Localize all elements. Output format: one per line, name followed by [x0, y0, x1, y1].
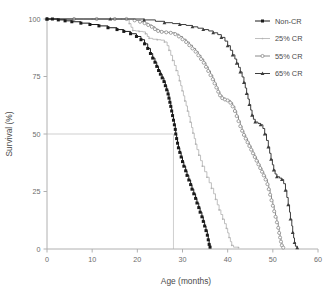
marker-circle-open — [274, 215, 277, 218]
marker-circle-open — [199, 57, 202, 60]
x-tick-label: 20 — [133, 255, 141, 264]
marker-square — [157, 69, 160, 72]
marker-circle-open — [248, 144, 251, 147]
marker-circle-open — [257, 163, 260, 166]
marker-dot — [172, 60, 174, 62]
marker-square — [167, 92, 170, 95]
marker-circle-open — [177, 35, 180, 38]
marker-square — [161, 76, 164, 79]
marker-circle-open — [150, 25, 153, 28]
marker-square — [176, 142, 179, 145]
marker-circle-open — [211, 78, 214, 81]
marker-dot — [168, 49, 170, 51]
marker-square — [209, 246, 212, 249]
marker-circle-open — [235, 115, 238, 118]
marker-square — [168, 101, 171, 104]
marker-square — [167, 97, 170, 100]
marker-circle-open — [255, 159, 258, 162]
marker-dot — [262, 38, 264, 40]
marker-square — [204, 229, 207, 232]
marker-square — [159, 73, 162, 76]
marker-circle-open — [181, 38, 184, 41]
marker-dot — [156, 39, 158, 41]
marker-circle-open — [264, 178, 267, 181]
marker-square — [170, 110, 173, 113]
marker-circle-open — [279, 236, 282, 239]
x-tick-label: 10 — [88, 255, 96, 264]
y-tick-label: 0 — [37, 245, 41, 254]
marker-square — [184, 169, 187, 172]
marker-circle-open — [165, 31, 168, 34]
marker-square — [155, 65, 158, 68]
y-tick-label: 100 — [29, 15, 41, 24]
marker-square — [180, 156, 183, 159]
marker-dot — [128, 23, 130, 25]
marker-circle-open — [185, 40, 188, 43]
marker-square — [171, 114, 174, 117]
marker-square — [129, 32, 132, 35]
marker-dot — [222, 218, 224, 220]
marker-square — [79, 22, 82, 25]
marker-dot — [189, 121, 191, 123]
marker-circle-open — [169, 31, 172, 34]
marker-dot — [132, 30, 134, 32]
marker-square — [206, 234, 209, 237]
marker-square — [151, 57, 154, 60]
marker-circle-open — [218, 94, 221, 97]
marker-dot — [175, 70, 177, 72]
y-tick-label: 50 — [33, 130, 41, 139]
marker-square — [172, 119, 175, 122]
marker-circle-open — [213, 82, 216, 85]
marker-circle-open — [147, 23, 150, 26]
marker-square — [190, 188, 193, 191]
marker-dot — [195, 143, 197, 145]
marker-square — [51, 18, 54, 21]
marker-square — [192, 192, 195, 195]
marker-square — [208, 243, 211, 246]
marker-square — [169, 105, 172, 108]
marker-dot — [181, 90, 183, 92]
marker-dot — [178, 80, 180, 82]
marker-square — [46, 18, 49, 21]
marker-circle-open — [194, 50, 197, 53]
marker-square — [116, 28, 119, 31]
marker-circle-open — [267, 188, 270, 191]
marker-dot — [238, 247, 240, 249]
marker-circle-open — [262, 174, 265, 177]
marker-square — [70, 20, 73, 23]
marker-circle-open — [271, 204, 274, 207]
marker-square — [189, 183, 192, 186]
marker-circle-open — [241, 129, 244, 132]
marker-circle-open — [259, 166, 262, 169]
marker-square — [200, 215, 203, 218]
marker-circle-open — [266, 183, 269, 186]
marker-square — [162, 80, 165, 83]
legend-label: Non-CR — [275, 17, 302, 26]
marker-square — [177, 146, 180, 149]
marker-circle-open — [229, 101, 232, 104]
marker-circle-open — [138, 20, 141, 23]
marker-square — [194, 197, 197, 200]
x-tick-label: 50 — [269, 255, 277, 264]
marker-circle-open — [239, 125, 242, 128]
marker-circle-open — [209, 74, 212, 77]
marker-circle-open — [260, 170, 263, 173]
y-tick-label: 75 — [33, 72, 41, 81]
marker-square — [186, 174, 189, 177]
marker-dot — [138, 31, 140, 33]
marker-circle-open — [143, 22, 146, 25]
marker-square — [57, 18, 60, 21]
marker-square — [164, 84, 167, 87]
marker-circle-open — [261, 54, 264, 57]
x-tick-label: 60 — [314, 255, 322, 264]
marker-circle-open — [202, 61, 205, 64]
marker-dot — [187, 110, 189, 112]
marker-dot — [198, 154, 200, 156]
marker-circle-open — [217, 90, 220, 93]
marker-square — [143, 42, 146, 45]
marker-circle-open — [275, 221, 278, 224]
marker-circle-open — [277, 226, 280, 229]
marker-square — [195, 202, 198, 205]
marker-dot — [148, 37, 150, 39]
marker-circle-open — [270, 199, 273, 202]
